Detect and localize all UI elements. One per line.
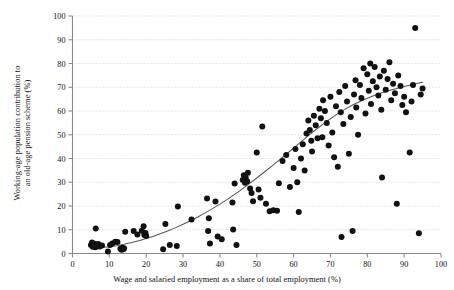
scatter-chart-figure: 0102030405060708090100 01020304050607080… [0, 0, 454, 290]
svg-text:40: 40 [57, 155, 65, 164]
svg-text:0: 0 [61, 250, 65, 259]
gridlines-group [73, 16, 442, 230]
svg-text:100: 100 [53, 12, 65, 21]
svg-text:60: 60 [57, 107, 65, 116]
plot-area-svg: 0102030405060708090100 01020304050607080… [0, 0, 454, 290]
svg-text:70: 70 [57, 83, 65, 92]
svg-text:50: 50 [57, 131, 65, 140]
fitted-trend-line [102, 82, 423, 247]
svg-text:30: 30 [57, 178, 65, 187]
svg-text:20: 20 [57, 202, 65, 211]
svg-text:90: 90 [57, 36, 65, 45]
x-axis-ticks-group [73, 254, 442, 258]
svg-text:80: 80 [57, 60, 65, 69]
y-axis-ticks-group [69, 16, 73, 254]
svg-text:10: 10 [57, 226, 65, 235]
y-axis-tick-labels: 0102030405060708090100 [53, 12, 65, 259]
x-axis-title: Wage and salaried employment as a share … [0, 268, 454, 286]
x-axis-title-text: Wage and salaried employment as a share … [113, 275, 341, 284]
data-points-group [88, 25, 426, 255]
